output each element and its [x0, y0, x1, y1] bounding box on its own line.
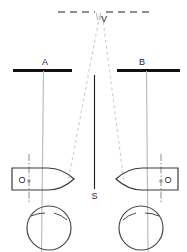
target-label-b: B	[139, 57, 145, 67]
target-label-a: A	[42, 57, 48, 67]
bearing-diagram-figure: V A B S O O	[0, 0, 187, 252]
observer-left-point	[27, 179, 31, 183]
compass-right-arc-mark-a	[123, 213, 136, 220]
compass-rose-left	[27, 206, 71, 250]
observer-left-label: O	[18, 175, 25, 185]
vertex-tick-marks	[97, 13, 101, 20]
compass-left-circle	[27, 206, 71, 250]
sight-line-left	[42, 71, 44, 252]
observer-right-point	[159, 179, 163, 183]
sight-line-right	[147, 71, 149, 252]
observer-right-label: O	[164, 175, 171, 185]
converging-dashed-sight-lines	[68, 16, 124, 182]
compass-rose-right	[119, 206, 163, 250]
compass-left-arc-mark-b	[54, 213, 67, 220]
vertex-tick-left	[97, 13, 98, 20]
dashed-sight-line-right	[103, 16, 125, 182]
vertex-label: V	[101, 14, 107, 24]
diagram-canvas: V A B S O O	[0, 0, 187, 252]
center-baseline-label-s: S	[91, 191, 97, 201]
compass-right-circle	[119, 206, 163, 250]
